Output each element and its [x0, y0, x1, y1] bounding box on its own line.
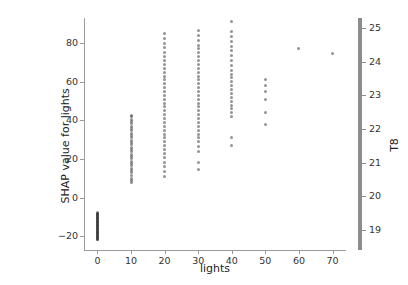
y-tick-mark [80, 198, 84, 199]
data-point [197, 55, 200, 58]
colorbar-tick-mark [362, 129, 366, 130]
data-point [197, 44, 200, 47]
colorbar-tick-label: 19 [369, 225, 381, 235]
data-point [130, 177, 133, 180]
data-point [264, 78, 267, 81]
data-point [197, 150, 200, 153]
data-point [163, 105, 166, 108]
x-tick-mark [131, 250, 132, 254]
data-point [163, 37, 166, 40]
colorbar-tick-mark [362, 230, 366, 231]
data-point [230, 73, 233, 76]
data-point [230, 64, 233, 67]
data-point [197, 117, 200, 120]
data-point [163, 140, 166, 143]
colorbar-tick-label: 24 [369, 57, 381, 67]
x-tick-mark [232, 250, 233, 254]
x-axis-spine [84, 250, 346, 251]
x-tick-mark [265, 250, 266, 254]
colorbar-label-text: T8 [389, 138, 402, 152]
data-point [230, 40, 233, 43]
data-point [197, 105, 200, 108]
data-point [230, 45, 233, 48]
data-point [163, 156, 166, 159]
colorbar-tick-label: 21 [369, 158, 381, 168]
data-point [264, 84, 267, 87]
data-point [163, 78, 166, 81]
data-point [230, 88, 233, 91]
data-point [197, 125, 200, 128]
data-point [197, 133, 200, 136]
data-point [197, 39, 200, 42]
data-point [197, 34, 200, 37]
data-point [163, 175, 166, 178]
y-axis-label-text: SHAP value for lights [60, 85, 73, 205]
data-point [163, 59, 166, 62]
y-tick-label: 0 [72, 193, 78, 203]
data-point [230, 84, 233, 87]
data-point [96, 211, 99, 214]
data-point [197, 94, 200, 97]
data-point [163, 94, 166, 97]
y-tick-label: 40 [66, 116, 78, 126]
data-point [230, 30, 233, 33]
colorbar-tick-mark [362, 196, 366, 197]
data-point [130, 139, 133, 142]
data-point [197, 113, 200, 116]
y-tick-label: 80 [66, 38, 78, 48]
data-point [297, 47, 300, 50]
plot-axes: −20020406080 010203040506070 [84, 18, 346, 250]
scatter-plot-figure: SHAP value for lights −20020406080 01020… [0, 0, 408, 285]
data-point [197, 29, 200, 32]
y-axis-label-inner: SHAP value for lights [60, 85, 73, 205]
data-point [130, 153, 133, 156]
data-point [264, 90, 267, 93]
data-point [331, 52, 334, 55]
data-point [197, 67, 200, 70]
data-point [130, 118, 133, 121]
data-point [230, 54, 233, 57]
data-point [163, 165, 166, 168]
data-point [163, 170, 166, 173]
x-tick-mark [198, 250, 199, 254]
data-point [230, 115, 233, 118]
y-axis-label: SHAP value for lights [6, 133, 36, 152]
colorbar-tick-mark [362, 62, 366, 63]
data-point [197, 51, 200, 54]
x-tick-mark [165, 250, 166, 254]
y-axis-spine [84, 18, 85, 250]
x-tick-mark [333, 250, 334, 254]
data-point [197, 86, 200, 89]
data-point [163, 98, 166, 101]
data-point [197, 78, 200, 81]
data-point [230, 111, 233, 114]
data-point [163, 42, 166, 45]
colorbar-tick-label: 20 [369, 191, 381, 201]
x-axis-label: lights [84, 262, 346, 275]
y-tick-label: −20 [58, 232, 78, 242]
data-point [163, 90, 166, 93]
colorbar-tick-mark [362, 163, 366, 164]
data-point [163, 161, 166, 164]
data-point [163, 109, 166, 112]
data-point [163, 102, 166, 105]
data-point [264, 98, 267, 101]
data-point [163, 152, 166, 155]
data-point [163, 51, 166, 54]
data-point [163, 125, 166, 128]
data-point [163, 113, 166, 116]
data-point [197, 145, 200, 148]
data-point [197, 168, 200, 171]
data-point [163, 117, 166, 120]
colorbar-tick-label: 25 [369, 23, 381, 33]
colorbar-tick-mark [362, 95, 366, 96]
data-point [130, 132, 133, 135]
data-point [197, 109, 200, 112]
data-point [230, 100, 233, 103]
data-point [163, 32, 166, 35]
data-point [230, 49, 233, 52]
colorbar-label: T8 [386, 133, 404, 152]
colorbar-tick-label: 22 [369, 124, 381, 134]
data-point [230, 96, 233, 99]
data-point [230, 76, 233, 79]
